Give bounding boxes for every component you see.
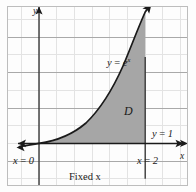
plot-canvas [0,0,196,192]
figure-background [0,0,196,192]
figure-container: y = ex D y = 1 x = 0 x = 2 Fixed x y x [0,0,196,192]
